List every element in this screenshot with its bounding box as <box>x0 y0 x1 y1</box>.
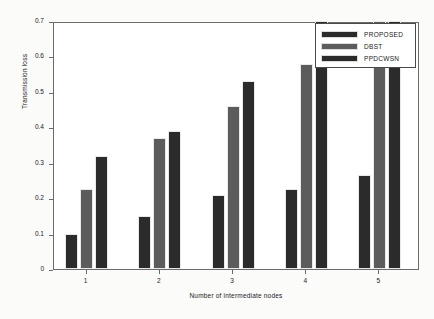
bar <box>80 189 93 269</box>
bar <box>95 156 108 269</box>
y-axis-tick-label: 0.3 <box>35 159 44 166</box>
bar <box>65 234 78 269</box>
y-axis-tick-label: 0.6 <box>35 52 44 59</box>
bar <box>285 189 298 269</box>
x-axis-tick-mark <box>159 270 160 274</box>
bar <box>227 106 240 269</box>
legend-swatch <box>321 55 358 62</box>
legend-label: PPDCWSN <box>364 55 399 62</box>
x-axis-tick-mark <box>305 270 306 274</box>
x-axis-tick-mark <box>86 270 87 274</box>
bar <box>168 131 181 269</box>
x-axis-tick-label: 2 <box>149 277 169 284</box>
x-axis-tick-label: 1 <box>76 277 96 284</box>
legend-swatch <box>321 31 358 38</box>
y-axis-tick-label: 0.1 <box>35 230 44 237</box>
bar <box>358 175 371 269</box>
bar <box>242 81 255 269</box>
x-axis-title: Number of intermediate nodes <box>53 292 419 299</box>
x-axis-tick-label: 3 <box>222 277 242 284</box>
y-axis-tick-label: 0.2 <box>35 194 44 201</box>
legend-swatch <box>321 43 358 50</box>
y-axis-tick-label: 0.5 <box>35 88 44 95</box>
bar <box>212 195 225 269</box>
chart-legend: PROPOSEDDBSTPPDCWSN <box>315 23 416 68</box>
legend-item: DBST <box>321 40 410 52</box>
x-axis-tick-label: 5 <box>368 277 388 284</box>
legend-label: PROPOSED <box>364 31 403 38</box>
legend-item: PROPOSED <box>321 28 410 40</box>
x-axis-tick-mark <box>378 270 379 274</box>
y-axis-tick-label: 0.7 <box>35 17 44 24</box>
y-axis-tick-label: 0.4 <box>35 123 44 130</box>
x-axis-tick-label: 4 <box>295 277 315 284</box>
x-axis-tick-mark <box>232 270 233 274</box>
y-axis-tick-label: 0 <box>40 265 44 272</box>
y-axis-tick-mark <box>49 270 53 271</box>
legend-item: PPDCWSN <box>321 52 410 64</box>
bar <box>153 138 166 269</box>
bar <box>300 64 313 269</box>
bar <box>138 216 151 269</box>
bar-chart-figure: Transmission loss 00.10.20.30.40.50.60.7… <box>0 0 434 319</box>
legend-label: DBST <box>364 43 383 50</box>
y-axis-title: Transmission loss <box>21 22 28 142</box>
